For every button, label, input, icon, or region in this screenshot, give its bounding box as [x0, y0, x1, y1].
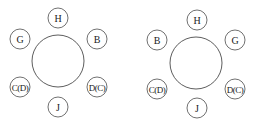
seat-label: G	[231, 35, 238, 46]
seat-label: H	[54, 13, 61, 24]
arrangement-2: HBGC(D)D(C)J	[147, 10, 245, 118]
seat-label: C(D)	[149, 85, 166, 95]
seat-label: J	[56, 102, 60, 113]
seat-label: B	[94, 34, 101, 45]
seat-label: G	[16, 34, 23, 45]
seat-label: H	[193, 15, 200, 26]
round-table	[32, 35, 84, 87]
seat-label: D(C)	[89, 83, 106, 93]
seat-label: J	[195, 103, 199, 114]
round-table	[170, 37, 222, 89]
seating-diagrams: HGBC(D)D(C)JHBGC(D)D(C)J	[0, 0, 256, 128]
seat-label: C(D)	[12, 83, 29, 93]
seat-label: D(C)	[227, 85, 244, 95]
arrangement-1: HGBC(D)D(C)J	[10, 8, 107, 117]
seat-label: B	[154, 35, 161, 46]
